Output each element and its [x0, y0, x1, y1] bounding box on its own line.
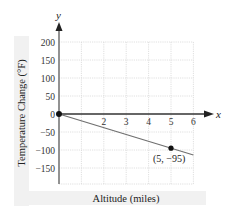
x-tick: 4 — [146, 117, 151, 127]
y-tick: −100 — [35, 146, 55, 156]
x-tick: 5 — [169, 117, 174, 127]
y-tick: −50 — [40, 128, 55, 138]
x-tick: 3 — [124, 117, 129, 127]
y-tick: 100 — [41, 74, 56, 84]
x-axis: x — [59, 108, 221, 120]
x-tick: 2 — [101, 117, 106, 127]
origin-point — [56, 111, 62, 117]
y-axis-arrow-icon — [56, 22, 63, 31]
y-tick: 200 — [41, 38, 56, 48]
x-tick-labels: 2 3 4 5 6 — [101, 117, 196, 127]
y-axis-title: Temperature Change (°F) — [16, 59, 28, 167]
x-axis-title: Altitude (miles) — [93, 193, 160, 205]
y-axis-var: y — [55, 9, 61, 21]
y-tick: 50 — [46, 92, 56, 102]
x-tick: 6 — [191, 117, 196, 127]
y-axis: y — [55, 9, 63, 184]
data-point — [168, 146, 173, 151]
y-tick: −150 — [35, 164, 55, 174]
chart: y x 200 150 100 50 0 −50 −100 −150 2 3 4… — [0, 0, 234, 214]
y-tick: 0 — [50, 110, 55, 120]
y-tick: 150 — [41, 56, 56, 66]
y-tick-labels: 200 150 100 50 0 −50 −100 −150 — [35, 38, 55, 174]
x-axis-var: x — [215, 108, 221, 120]
x-axis-arrow-icon — [204, 111, 214, 118]
point-label: (5, −95) — [153, 153, 185, 165]
